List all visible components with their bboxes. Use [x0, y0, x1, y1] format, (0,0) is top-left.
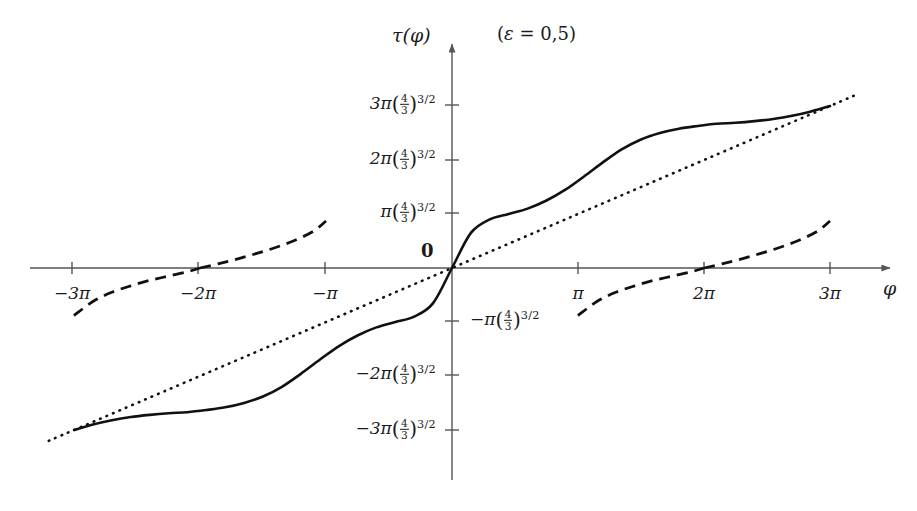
x-axis-title: φ	[883, 277, 896, 299]
deviation-branch	[578, 268, 704, 316]
y-tick-label: 3π(43)3/2	[0, 92, 436, 116]
x-tick-label: −2π	[180, 283, 216, 303]
y-tick-label: π(43)3/2	[0, 200, 436, 224]
y-tick-label: 2π(43)3/2	[0, 147, 436, 171]
x-tick-label: 3π	[819, 283, 841, 303]
kepler-tau-phi-figure: τ(φ) φ (ε = 0,5) 0 −3π−2π−ππ2π3π 3π(43)3…	[0, 0, 917, 511]
y-tick-label: −2π(43)3/2	[0, 362, 436, 386]
epsilon-annotation: (ε = 0,5)	[497, 23, 576, 44]
deviation-branch	[200, 221, 326, 268]
epsilon-value: 0,5	[540, 23, 569, 44]
x-tick-label: −π	[312, 283, 337, 303]
y-tick-label: −3π(43)3/2	[0, 417, 436, 441]
x-tick-label: 2π	[693, 283, 715, 303]
epsilon-symbol: ε	[504, 23, 514, 44]
origin-label: 0	[421, 240, 434, 261]
x-tick-label: −3π	[54, 283, 90, 303]
x-tick-label: π	[572, 283, 583, 303]
y-axis-title: τ(φ)	[392, 24, 431, 46]
y-tick-label: −π(43)3/2	[470, 308, 540, 332]
deviation-branch	[704, 221, 830, 268]
